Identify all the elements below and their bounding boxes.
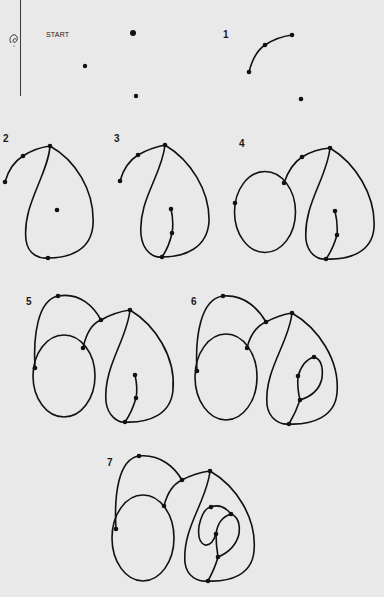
step-3 xyxy=(118,143,209,260)
step-7 xyxy=(112,454,254,584)
step-5 xyxy=(33,294,174,425)
step-2 xyxy=(3,144,93,261)
drawing-instruction-page: START 1 2 3 4 5 6 7 xyxy=(0,0,384,597)
step-6 xyxy=(195,294,338,427)
step-4 xyxy=(233,146,374,262)
step-start xyxy=(83,30,138,98)
drawing-steps xyxy=(0,0,384,597)
step-1 xyxy=(247,33,304,102)
